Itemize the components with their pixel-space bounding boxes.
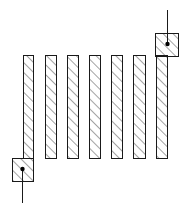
resistor-bar-1 bbox=[24, 56, 34, 159]
resistor-bar-6 bbox=[134, 56, 146, 159]
diagram-canvas bbox=[0, 0, 191, 214]
resistor-bar-4 bbox=[90, 56, 101, 159]
resistor-bar-2 bbox=[46, 56, 57, 159]
resistor-layout-diagram bbox=[0, 0, 191, 214]
resistor-bar-5 bbox=[112, 56, 123, 159]
resistor-bar-3 bbox=[68, 56, 79, 159]
resistor-bars bbox=[24, 56, 168, 159]
contact-dot-icon bbox=[165, 42, 169, 46]
contact-dot-icon bbox=[20, 167, 24, 171]
resistor-bar-7 bbox=[157, 56, 168, 159]
